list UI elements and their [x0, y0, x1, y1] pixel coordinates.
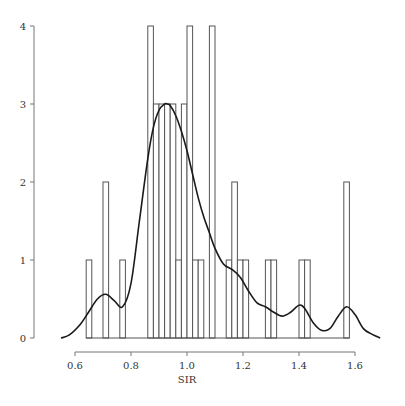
- histogram-bar: [148, 26, 154, 338]
- histogram-bar: [187, 26, 193, 338]
- histogram-bar: [237, 260, 243, 338]
- y-tick-label: 0: [20, 333, 26, 344]
- histogram-chart: 01234 0.60.81.01.21.41.6 SIR: [0, 0, 405, 406]
- histogram-bar: [159, 104, 165, 338]
- x-tick-label: 1.0: [179, 360, 195, 371]
- histogram-bar: [198, 260, 204, 338]
- y-tick-label: 2: [20, 177, 26, 188]
- y-axis: 01234: [20, 21, 34, 344]
- histogram-bar: [193, 260, 199, 338]
- x-tick-label: 1.6: [347, 360, 363, 371]
- histogram-bar: [305, 260, 311, 338]
- y-tick-label: 4: [20, 21, 26, 32]
- x-axis-title: SIR: [178, 374, 197, 385]
- x-axis: 0.60.81.01.21.41.6: [67, 352, 363, 371]
- histogram-bar: [232, 182, 238, 338]
- histogram-bar: [153, 104, 159, 338]
- histogram-bar: [209, 26, 215, 338]
- x-tick-label: 0.6: [67, 360, 83, 371]
- histogram-bar: [265, 260, 271, 338]
- histogram-bars: [86, 26, 349, 338]
- histogram-bar: [226, 260, 232, 338]
- histogram-bar: [120, 260, 126, 338]
- histogram-bar: [103, 182, 109, 338]
- histogram-bar: [299, 260, 305, 338]
- y-tick-label: 1: [20, 255, 26, 266]
- histogram-bar: [165, 104, 171, 338]
- histogram-bar: [243, 260, 249, 338]
- histogram-bar: [170, 104, 176, 338]
- histogram-bar: [86, 260, 92, 338]
- x-tick-label: 0.8: [123, 360, 139, 371]
- x-tick-label: 1.4: [291, 360, 307, 371]
- x-tick-label: 1.2: [235, 360, 251, 371]
- histogram-bar: [344, 182, 350, 338]
- histogram-bar: [271, 260, 277, 338]
- histogram-bar: [176, 260, 182, 338]
- y-tick-label: 3: [20, 99, 26, 110]
